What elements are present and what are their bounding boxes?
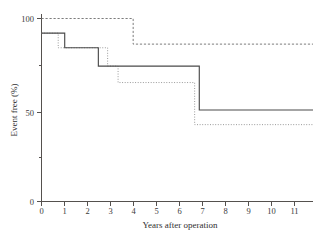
x-tick-label-0: 0 — [39, 206, 43, 216]
solid-curve — [42, 33, 314, 110]
x-tick-label-6: 6 — [177, 206, 181, 216]
x-tick-label-10: 10 — [267, 206, 276, 216]
x-tick-label-3: 3 — [108, 206, 112, 216]
y-tick-label-100: 100 — [21, 14, 34, 24]
x-tick-label-2: 2 — [85, 206, 89, 216]
dashed-curve — [42, 19, 314, 45]
x-axis-ticks — [42, 202, 295, 206]
kaplan-meier-chart: 100 50 0 0 1 2 3 4 5 6 7 8 9 10 11 — [0, 0, 329, 235]
x-tick-label-4: 4 — [131, 206, 136, 216]
y-tick-label-0: 0 — [30, 197, 34, 207]
dotted-curve — [42, 33, 314, 125]
x-tick-label-11: 11 — [290, 206, 298, 216]
x-tick-label-7: 7 — [200, 206, 204, 216]
y-axis-title: Event free (%) — [9, 84, 19, 137]
x-tick-label-5: 5 — [154, 206, 158, 216]
chart-canvas: 100 50 0 0 1 2 3 4 5 6 7 8 9 10 11 — [0, 0, 329, 235]
x-axis-title: Years after operation — [142, 220, 218, 230]
y-tick-label-50: 50 — [26, 108, 35, 118]
y-axis-ticks — [37, 19, 42, 202]
curve-group — [42, 19, 314, 125]
x-tick-label-1: 1 — [62, 206, 66, 216]
x-tick-label-9: 9 — [246, 206, 250, 216]
x-tick-label-8: 8 — [223, 206, 227, 216]
